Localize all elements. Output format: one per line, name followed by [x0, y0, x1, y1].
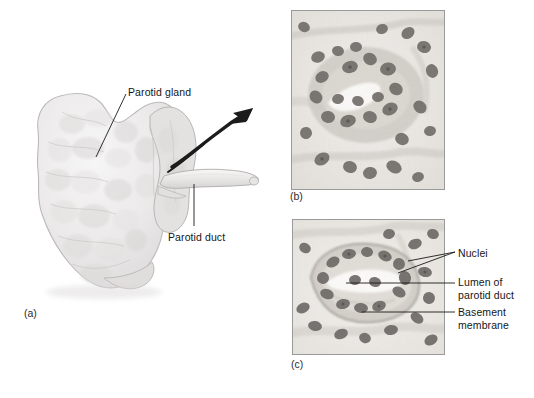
label-parotid-gland: Parotid gland — [128, 86, 191, 99]
parotid-gland-drawing — [0, 0, 282, 330]
panel-c-micrograph — [292, 219, 445, 355]
label-basement-membrane: Basement membrane — [458, 306, 509, 331]
panel-tag-b: (b) — [290, 190, 303, 202]
panel-tag-a: (a) — [24, 307, 37, 319]
panel-a-illustration: Parotid gland Parotid duct — [0, 0, 282, 330]
label-nuclei: Nuclei — [458, 247, 488, 260]
panel-tag-c: (c) — [291, 358, 303, 370]
label-lumen-of-parotid-duct: Lumen of parotid duct — [458, 276, 514, 301]
panel-b-micrograph — [291, 10, 445, 190]
gland-shadow — [46, 285, 162, 299]
parotid-duct-shape — [158, 169, 259, 198]
figure-root: Parotid gland Parotid duct — [0, 0, 534, 398]
label-parotid-duct: Parotid duct — [168, 231, 225, 244]
